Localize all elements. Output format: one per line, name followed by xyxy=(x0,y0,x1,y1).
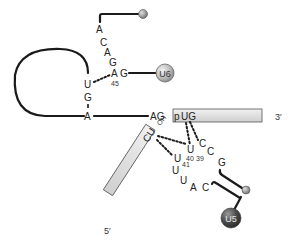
u5-label: U5 xyxy=(225,214,237,224)
nt-c-lower: C xyxy=(202,182,209,193)
nt-upper-g: G xyxy=(109,57,117,68)
nt-a-lower: A xyxy=(190,182,197,193)
nt-loop-a: A xyxy=(84,111,91,122)
u5-end-bead xyxy=(242,186,250,194)
top-strand-end-bead xyxy=(139,10,148,19)
u6-label: U6 xyxy=(159,69,171,79)
spliceosome-diagram: A C A G A G 45 U6 U G A AG p UG 3′ CU OH… xyxy=(0,0,295,243)
junction-p: p xyxy=(174,111,180,122)
nt-upper-a45: A xyxy=(111,68,118,79)
pairing-g-c39 xyxy=(190,122,198,140)
u5-stem-upper xyxy=(220,170,242,188)
position-39: 39 xyxy=(196,155,204,162)
position-45: 45 xyxy=(111,80,119,87)
pairing-u-a45 xyxy=(94,75,110,82)
nt-u-lower2: U xyxy=(180,175,187,186)
three-prime-label: 3′ xyxy=(275,112,282,122)
top-strand-line xyxy=(100,14,142,22)
nt-loop-u: U xyxy=(84,79,91,90)
nt-g-u5: G xyxy=(218,157,226,168)
nt-u-lower1: U xyxy=(172,165,179,176)
nt-u40: U xyxy=(187,144,194,155)
pairing-u-u41 xyxy=(157,140,172,155)
pairing-c-u40 xyxy=(158,136,186,144)
loop-strand xyxy=(15,49,88,116)
five-prime-label: 5′ xyxy=(104,226,111,236)
nt-upper-a1: A xyxy=(96,24,103,35)
nt-u41: U xyxy=(174,153,181,164)
nt-loop-g: G xyxy=(84,92,92,103)
position-41: 41 xyxy=(182,161,190,168)
nt-c-mid: C xyxy=(207,146,214,157)
pairing-u-u40 xyxy=(186,123,190,145)
u5-connector xyxy=(234,197,241,210)
nt-c39-upper: C xyxy=(199,138,206,149)
nt-upper-g2: G xyxy=(120,68,128,79)
junction-ug: UG xyxy=(181,111,196,122)
